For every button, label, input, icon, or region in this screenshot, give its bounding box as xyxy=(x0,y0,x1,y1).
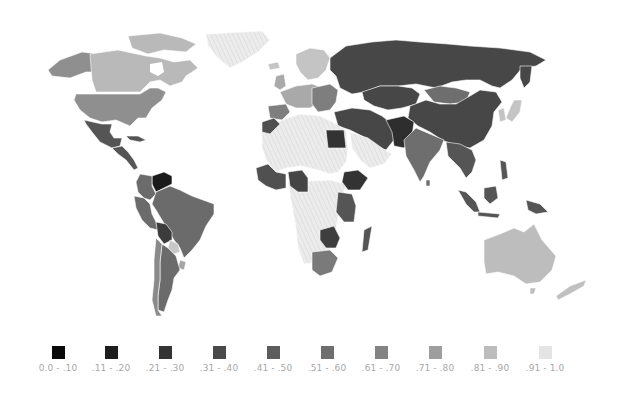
country-philippines[interactable] xyxy=(500,160,508,180)
legend-label: .91 - 1.0 xyxy=(517,363,573,373)
country-usa[interactable] xyxy=(74,88,166,126)
country-scandinavia[interactable] xyxy=(296,48,330,80)
legend-item-6: .61 - .70 xyxy=(353,346,409,373)
legend-label: .41 - .50 xyxy=(245,363,301,373)
country-ethiopia[interactable] xyxy=(342,170,368,190)
country-russia[interactable] xyxy=(330,40,546,94)
legend-label: .21 - .30 xyxy=(137,363,193,373)
country-tasmania[interactable] xyxy=(530,288,536,294)
legend-swatch xyxy=(539,346,552,359)
country-canada[interactable] xyxy=(90,50,198,92)
country-iceland[interactable] xyxy=(268,62,280,70)
country-canada-arctic[interactable] xyxy=(128,33,196,54)
country-new-guinea[interactable] xyxy=(526,200,548,214)
legend-swatch xyxy=(213,346,226,359)
legend-swatch xyxy=(484,346,497,359)
legend-item-9: .91 - 1.0 xyxy=(517,346,573,373)
legend-item-8: .81 - .90 xyxy=(462,346,518,373)
legend-item-4: .41 - .50 xyxy=(245,346,301,373)
country-argentina[interactable] xyxy=(158,244,180,312)
legend-swatch xyxy=(52,346,65,359)
country-russia-kamchatka[interactable] xyxy=(520,66,532,88)
country-egypt[interactable] xyxy=(326,130,346,148)
legend-swatch xyxy=(105,346,118,359)
legend-swatch xyxy=(267,346,280,359)
legend-label: .71 - .80 xyxy=(407,363,463,373)
legend-swatch xyxy=(375,346,388,359)
country-java[interactable] xyxy=(478,212,500,218)
legend-label: .11 - .20 xyxy=(83,363,139,373)
country-eastern-europe[interactable] xyxy=(312,84,338,112)
country-new-zealand[interactable] xyxy=(556,280,586,300)
legend-item-7: .71 - .80 xyxy=(407,346,463,373)
legend-swatch xyxy=(429,346,442,359)
country-uk[interactable] xyxy=(274,74,286,90)
country-madagascar[interactable] xyxy=(362,226,372,252)
country-australia[interactable] xyxy=(484,224,556,284)
country-sri-lanka[interactable] xyxy=(426,180,430,186)
legend-label: 0.0 - .10 xyxy=(30,363,86,373)
legend-swatch xyxy=(321,346,334,359)
country-spain[interactable] xyxy=(268,104,290,120)
legend-label: .61 - .70 xyxy=(353,363,409,373)
world-choropleth-map xyxy=(0,0,626,330)
country-central-america[interactable] xyxy=(112,146,138,170)
legend-label: .51 - .60 xyxy=(299,363,355,373)
legend-item-5: .51 - .60 xyxy=(299,346,355,373)
country-korea[interactable] xyxy=(498,108,506,122)
legend-item-0: 0.0 - .10 xyxy=(30,346,86,373)
country-east-africa[interactable] xyxy=(336,192,356,222)
country-greenland[interactable] xyxy=(206,31,270,68)
country-caribbean[interactable] xyxy=(126,136,146,142)
legend-label: .31 - .40 xyxy=(191,363,247,373)
country-borneo[interactable] xyxy=(484,186,498,204)
legend-swatch xyxy=(159,346,172,359)
country-south-africa[interactable] xyxy=(312,250,338,276)
legend-item-2: .21 - .30 xyxy=(137,346,193,373)
legend-item-1: .11 - .20 xyxy=(83,346,139,373)
map-legend: 0.0 - .10 .11 - .20 .21 - .30 .31 - .40 … xyxy=(0,346,626,386)
legend-label: .81 - .90 xyxy=(462,363,518,373)
legend-item-3: .31 - .40 xyxy=(191,346,247,373)
country-indonesia[interactable] xyxy=(458,190,480,212)
country-japan[interactable] xyxy=(506,100,522,122)
country-mexico[interactable] xyxy=(84,120,122,148)
